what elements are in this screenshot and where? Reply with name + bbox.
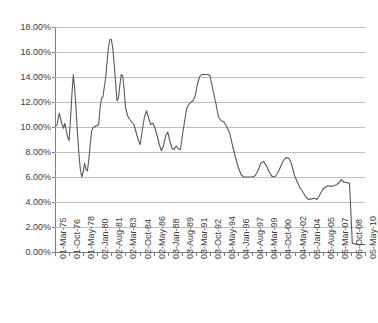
y-tick-label: 12.00%	[3, 98, 51, 107]
y-tick-mark	[52, 202, 55, 203]
x-tick-mark	[280, 253, 281, 256]
x-tick-label: 02-Aug-81	[115, 217, 124, 259]
y-tick-label: 6.00%	[3, 173, 51, 182]
y-tick-mark	[52, 227, 55, 228]
x-tick-label: 04-Aug-97	[256, 217, 265, 259]
x-tick-mark	[55, 253, 56, 256]
x-tick-mark	[323, 253, 324, 256]
x-tick-label: 03-May-94	[228, 216, 237, 259]
x-tick-mark	[351, 253, 352, 256]
y-tick-label: 10.00%	[3, 123, 51, 132]
x-tick-label: 02-Mar-83	[129, 217, 138, 259]
y-tick-label: 2.00%	[3, 223, 51, 232]
x-tick-mark	[252, 253, 253, 256]
y-tick-mark	[52, 27, 55, 28]
x-tick-mark	[154, 253, 155, 256]
x-tick-label: 03-Mar-91	[200, 217, 209, 259]
x-tick-mark	[83, 253, 84, 256]
x-tick-mark	[266, 253, 267, 256]
x-tick-label: 05-Jan-04	[313, 218, 322, 259]
x-tick-mark	[295, 253, 296, 256]
series-line-rate	[55, 40, 365, 245]
y-tick-label: 18.00%	[3, 23, 51, 32]
y-tick-label: 8.00%	[3, 148, 51, 157]
x-tick-mark	[210, 253, 211, 256]
x-tick-label: 05-Oct-08	[355, 219, 364, 259]
x-tick-mark	[337, 253, 338, 256]
x-tick-mark	[140, 253, 141, 256]
y-tick-mark	[52, 52, 55, 53]
x-tick-mark	[125, 253, 126, 256]
x-tick-label: 02-Jan-80	[101, 218, 110, 259]
x-tick-label: 01-Oct-76	[73, 219, 82, 259]
x-tick-label: 05-May-10	[369, 216, 378, 259]
x-tick-label: 04-May-02	[299, 216, 308, 259]
x-tick-mark	[69, 253, 70, 256]
x-tick-label: 04-Oct-00	[284, 219, 293, 259]
y-tick-label: 14.00%	[3, 73, 51, 82]
x-tick-label: 02-May-86	[158, 216, 167, 259]
y-tick-label: 16.00%	[3, 48, 51, 57]
x-tick-label: 03-Jan-88	[172, 218, 181, 259]
x-tick-mark	[365, 253, 366, 256]
y-axis: 18.00%16.00%14.00%12.00%10.00%8.00%6.00%…	[0, 0, 51, 323]
x-tick-label: 05-Mar-07	[341, 217, 350, 259]
y-tick-mark	[52, 152, 55, 153]
y-tick-mark	[52, 252, 55, 253]
y-tick-mark	[52, 127, 55, 128]
x-tick-mark	[182, 253, 183, 256]
y-tick-mark	[52, 177, 55, 178]
x-tick-label: 03-Oct-92	[214, 219, 223, 259]
x-tick-label: 04-Mar-99	[270, 217, 279, 259]
y-tick-mark	[52, 102, 55, 103]
x-tick-label: 03-Aug-89	[186, 217, 195, 259]
y-tick-label: 4.00%	[3, 198, 51, 207]
x-tick-mark	[168, 253, 169, 256]
y-tick-label: 0.00%	[3, 248, 51, 257]
x-tick-label: 05-Aug-05	[327, 217, 336, 259]
x-tick-label: 02-Oct-84	[144, 219, 153, 259]
y-tick-mark	[52, 77, 55, 78]
x-tick-mark	[224, 253, 225, 256]
x-tick-label: 01-Mar-75	[59, 217, 68, 259]
x-tick-mark	[196, 253, 197, 256]
x-tick-mark	[238, 253, 239, 256]
x-tick-mark	[97, 253, 98, 256]
x-tick-mark	[111, 253, 112, 256]
x-tick-label: 04-Jan-96	[242, 218, 251, 259]
x-tick-mark	[309, 253, 310, 256]
x-tick-label: 01-May-78	[87, 216, 96, 259]
